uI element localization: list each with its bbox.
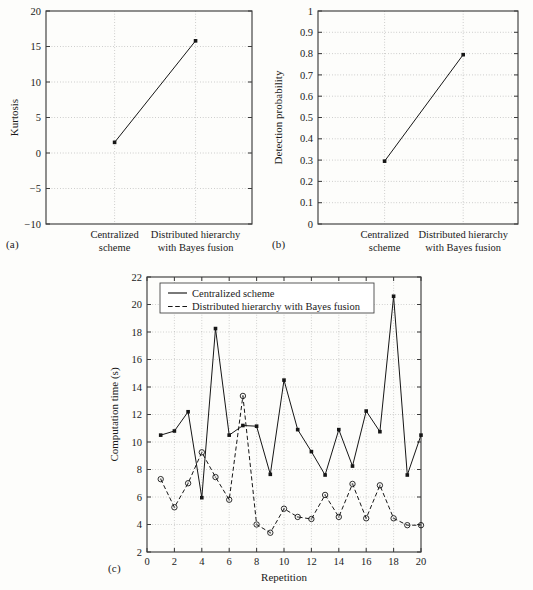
panel-b-label: (b) [272, 238, 285, 250]
svg-text:0.4: 0.4 [300, 133, 314, 144]
svg-text:18: 18 [132, 327, 143, 338]
data-point-s0-3 [200, 496, 204, 500]
svg-text:8: 8 [254, 556, 259, 567]
gridlines [46, 47, 252, 189]
category-gridlines [385, 11, 464, 224]
svg-text:Kurtosis: Kurtosis [8, 99, 20, 136]
svg-text:14: 14 [132, 382, 143, 393]
kurtosis-chart: −10−505101520KurtosisCentralizedschemeDi… [0, 0, 266, 262]
svg-text:10: 10 [31, 77, 42, 88]
svg-text:Distributed hierarchy: Distributed hierarchy [151, 229, 241, 240]
data-point-s0-7 [255, 424, 259, 428]
x-axis-title: Repetition [261, 571, 307, 583]
panel-c-computation-time: 24681012141618202202468101214161820Compu… [0, 262, 533, 590]
data-point-s0-12 [323, 473, 327, 477]
y-axis-title: Computation time (s) [108, 367, 121, 461]
svg-text:0: 0 [36, 148, 41, 159]
data-series [113, 39, 198, 144]
data-point-s0-9 [282, 378, 286, 382]
data-point-s0-6 [241, 424, 245, 428]
svg-text:0.2: 0.2 [300, 176, 313, 187]
svg-text:15: 15 [31, 41, 42, 52]
data-point-s0-16 [378, 430, 382, 434]
svg-text:0.1: 0.1 [300, 197, 313, 208]
svg-text:20: 20 [132, 299, 143, 310]
svg-text:10: 10 [132, 437, 143, 448]
panel-c-label: (c) [108, 562, 121, 574]
axis-ticks: 24681012141618202202468101214161820 [132, 272, 427, 567]
svg-text:12: 12 [132, 409, 143, 420]
svg-text:0.6: 0.6 [300, 91, 313, 102]
svg-text:0.5: 0.5 [300, 112, 313, 123]
svg-text:0: 0 [308, 219, 313, 230]
svg-text:0.9: 0.9 [300, 27, 313, 38]
svg-text:4: 4 [137, 519, 143, 530]
svg-text:16: 16 [361, 556, 372, 567]
series-line [115, 41, 196, 143]
computation-time-chart: 24681012141618202202468101214161820Compu… [0, 262, 533, 590]
svg-text:20: 20 [416, 556, 427, 567]
category-labels: CentralizedschemeDistributed hierarchywi… [360, 229, 508, 253]
data-point-s0-10 [296, 428, 300, 432]
data-series [383, 53, 465, 163]
svg-text:0.7: 0.7 [300, 70, 313, 81]
svg-text:scheme: scheme [369, 242, 401, 253]
series-line [385, 55, 464, 162]
data-point-s0-5 [227, 433, 231, 437]
svg-text:20: 20 [31, 6, 42, 17]
data-point-0 [383, 159, 387, 163]
data-point-s0-8 [269, 473, 273, 477]
svg-text:0.8: 0.8 [300, 48, 313, 59]
data-point-s0-0 [159, 433, 163, 437]
legend-label-0: Centralized scheme [192, 288, 275, 299]
data-series [158, 294, 424, 535]
data-point-s0-19 [419, 433, 423, 437]
series-line-1 [161, 396, 421, 533]
svg-text:14: 14 [334, 556, 345, 567]
svg-text:12: 12 [306, 556, 317, 567]
data-point-s0-17 [392, 294, 396, 298]
svg-text:1: 1 [308, 6, 313, 17]
svg-text:6: 6 [137, 492, 142, 503]
panel-a-kurtosis: −10−505101520KurtosisCentralizedschemeDi… [0, 0, 266, 262]
data-point-s0-1 [173, 429, 177, 433]
svg-text:2: 2 [172, 556, 177, 567]
data-point-0 [113, 141, 117, 145]
panel-a-label: (a) [6, 238, 19, 250]
svg-text:−5: −5 [30, 183, 41, 194]
data-point-s0-14 [351, 464, 355, 468]
svg-text:0.3: 0.3 [300, 155, 313, 166]
svg-text:scheme: scheme [99, 242, 131, 253]
detection-probability-chart: 00.10.20.30.40.50.60.70.80.91Detection p… [266, 0, 533, 262]
svg-text:8: 8 [137, 464, 142, 475]
data-point-s0-11 [310, 450, 314, 454]
svg-text:0: 0 [144, 556, 149, 567]
svg-text:22: 22 [132, 272, 143, 283]
svg-text:5: 5 [36, 112, 41, 123]
svg-text:−10: −10 [25, 219, 41, 230]
svg-text:with Bayes fusion: with Bayes fusion [158, 242, 235, 253]
svg-text:2: 2 [137, 547, 142, 558]
data-point-s0-4 [214, 327, 218, 331]
data-point-s0-13 [337, 428, 341, 432]
y-axis-ticks: −10−505101520 [25, 6, 252, 230]
data-point-s0-18 [406, 473, 410, 477]
axis-frame [318, 11, 518, 224]
gridlines [318, 32, 518, 202]
panel-b-detection-probability: 00.10.20.30.40.50.60.70.80.91Detection p… [266, 0, 533, 262]
y-axis-title: Detection probability [272, 70, 284, 164]
legend-label-1: Distributed hierarchy with Bayes fusion [192, 301, 361, 312]
svg-text:4: 4 [199, 556, 205, 567]
svg-text:10: 10 [279, 556, 290, 567]
y-axis-title: Kurtosis [8, 99, 20, 136]
svg-text:16: 16 [132, 354, 143, 365]
svg-text:18: 18 [388, 556, 399, 567]
svg-text:Detection probability: Detection probability [272, 70, 284, 164]
svg-text:with Bayes fusion: with Bayes fusion [425, 242, 502, 253]
svg-text:Centralized: Centralized [90, 229, 139, 240]
series-line-0 [161, 296, 421, 497]
svg-text:Centralized: Centralized [360, 229, 409, 240]
data-point-s0-2 [186, 410, 190, 414]
category-labels: CentralizedschemeDistributed hierarchywi… [90, 229, 241, 253]
legend: Centralized schemeDistributed hierarchy … [160, 283, 374, 313]
